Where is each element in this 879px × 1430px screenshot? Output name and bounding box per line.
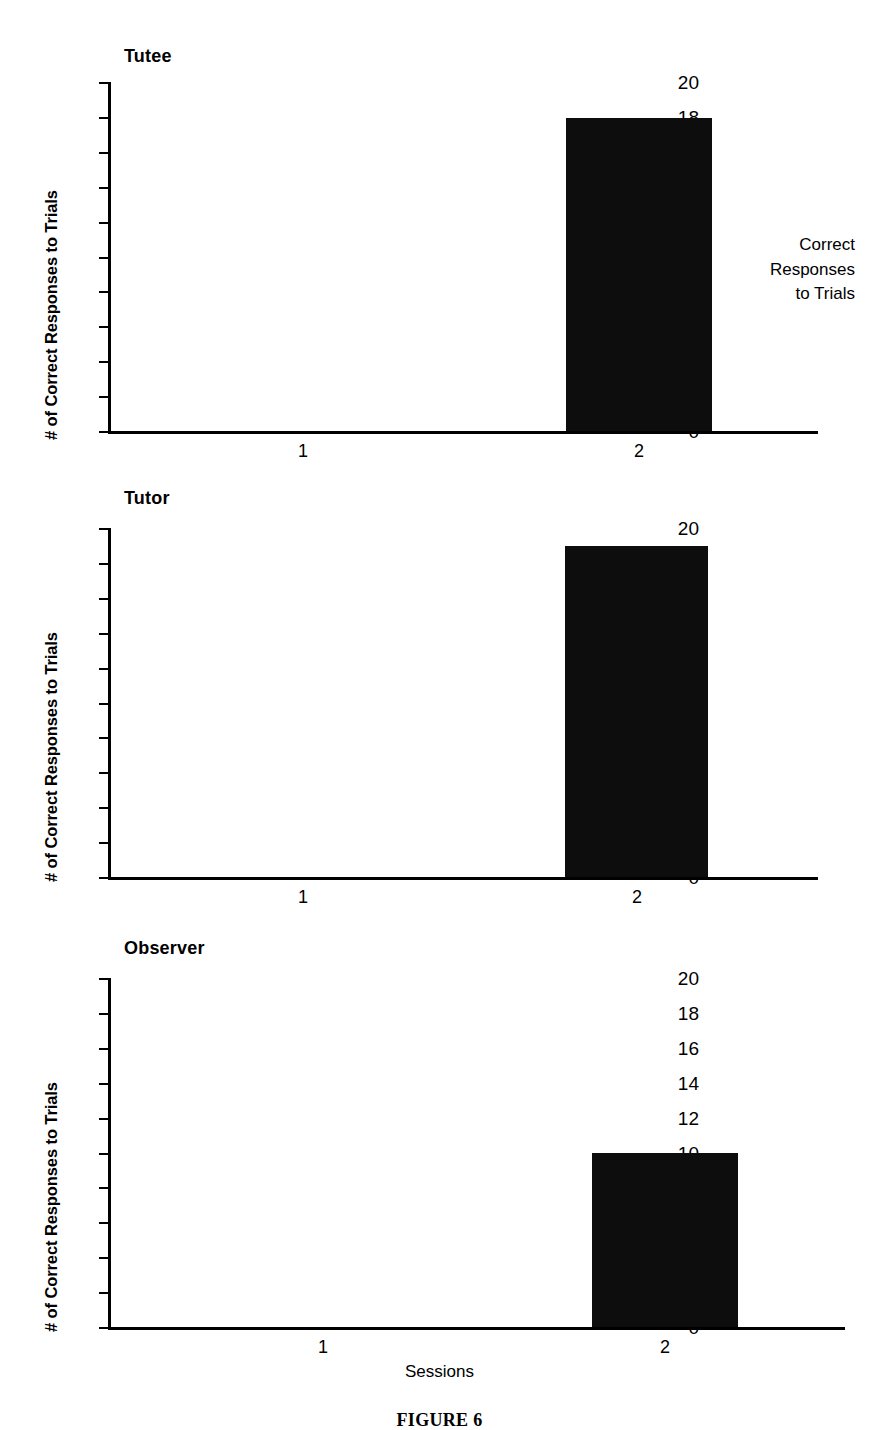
- y-tick-label: 20: [653, 73, 699, 92]
- bar-observer-session-2: [592, 1153, 738, 1328]
- y-tick: [99, 1048, 108, 1050]
- y-tick: [99, 842, 108, 844]
- y-tick: [99, 326, 108, 328]
- x-axis-line-tutee: [108, 431, 818, 434]
- y-tick: [99, 1118, 108, 1120]
- y-tick: [99, 1222, 108, 1224]
- y-tick: [99, 737, 108, 739]
- legend-line-1: Correct: [620, 233, 855, 258]
- bar-tutor-session-2: [565, 546, 708, 878]
- y-tick: [99, 807, 108, 809]
- y-tick: [99, 1327, 108, 1329]
- x-tick-label-tutee-1: 1: [223, 441, 383, 462]
- y-axis-line-tutor: [108, 528, 111, 880]
- panel-tutor: Tutor # of Correct Responses to Trials 2…: [0, 470, 879, 930]
- legend-line-3: to Trials: [620, 282, 855, 307]
- y-tick: [99, 187, 108, 189]
- y-tick-label: 12: [653, 1109, 699, 1128]
- y-tick: [99, 563, 108, 565]
- x-tick-label-tutor-2: 2: [557, 887, 717, 908]
- y-axis-title-tutor: # of Correct Responses to Trials: [42, 632, 61, 882]
- y-tick: [99, 117, 108, 119]
- y-axis-title-tutee: # of Correct Responses to Trials: [42, 190, 61, 440]
- y-tick: [99, 1187, 108, 1189]
- y-tick: [99, 257, 108, 259]
- x-axis-line-tutor: [108, 877, 818, 880]
- x-tick-label-observer-1: 1: [243, 1337, 403, 1358]
- x-tick-label-tutee-2: 2: [559, 441, 719, 462]
- y-tick: [99, 772, 108, 774]
- y-tick-label: 14: [653, 1074, 699, 1093]
- figure-caption: FIGURE 6: [0, 1410, 879, 1430]
- y-axis-line-tutee: [108, 82, 111, 434]
- panel-tutee: Tutee # of Correct Responses to Trials 2…: [0, 0, 879, 470]
- panel-observer: Observer # of Correct Responses to Trial…: [0, 930, 879, 1415]
- y-tick: [99, 82, 108, 84]
- y-tick: [99, 396, 108, 398]
- y-tick: [99, 431, 108, 433]
- y-tick: [99, 361, 108, 363]
- panel-title-tutor: Tutor: [124, 488, 170, 509]
- legend-tutee: Correct Responses to Trials: [620, 233, 855, 307]
- y-tick: [99, 1013, 108, 1015]
- y-tick: [99, 703, 108, 705]
- y-tick: [99, 633, 108, 635]
- y-tick: [99, 222, 108, 224]
- y-tick-label: 18: [653, 1004, 699, 1023]
- y-tick: [99, 528, 108, 530]
- plot-area-tutor: 20 18 16 14 12 10 8 6 4 2 0 1 2: [108, 528, 818, 880]
- panel-title-observer: Observer: [124, 938, 205, 959]
- y-tick: [99, 1083, 108, 1085]
- y-tick: [99, 978, 108, 980]
- y-axis-line-observer: [108, 978, 111, 1330]
- panel-title-tutee: Tutee: [124, 46, 172, 67]
- y-tick-label: 20: [653, 969, 699, 988]
- y-tick: [99, 1292, 108, 1294]
- legend-line-2: Responses: [620, 258, 855, 283]
- y-tick: [99, 152, 108, 154]
- y-tick: [99, 1257, 108, 1259]
- y-tick: [99, 291, 108, 293]
- x-axis-line-observer: [108, 1327, 845, 1330]
- plot-area-observer: 20 18 16 14 12 10 8 6 4 2 0 1 2: [108, 978, 845, 1330]
- y-tick-label: 16: [653, 1039, 699, 1058]
- y-tick: [99, 1153, 108, 1155]
- x-tick-label-tutor-1: 1: [223, 887, 383, 908]
- y-tick-label: 20: [653, 519, 699, 538]
- x-tick-label-observer-2: 2: [585, 1337, 745, 1358]
- y-tick: [99, 668, 108, 670]
- x-axis-title: Sessions: [0, 1362, 879, 1382]
- y-axis-title-observer: # of Correct Responses to Trials: [42, 1082, 61, 1332]
- y-tick: [99, 877, 108, 879]
- y-tick: [99, 598, 108, 600]
